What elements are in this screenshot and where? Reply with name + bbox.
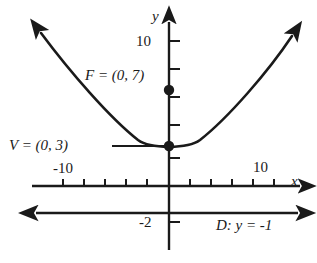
y-axis-ticks [169,41,180,222]
x-axis [32,179,300,186]
parabola-figure: y x 10 -10 10 -2 F = (0, 7) V = (0, 3) D… [0,0,317,263]
y-tick-label-10: 10 [136,34,151,49]
vertex-label: V = (0, 3) [9,138,68,153]
x-tick-label-10: 10 [253,160,268,175]
directrix-label: D: y = -1 [216,218,272,233]
focus-point [164,85,174,95]
y-tick-label-negative-2: -2 [139,215,152,230]
focus-label: F = (0, 7) [85,68,144,83]
x-axis-label: x [291,174,298,189]
y-axis [169,22,180,250]
vertex-point [164,141,174,151]
y-axis-label: y [152,9,159,24]
x-tick-label-negative-10: -10 [53,161,73,176]
